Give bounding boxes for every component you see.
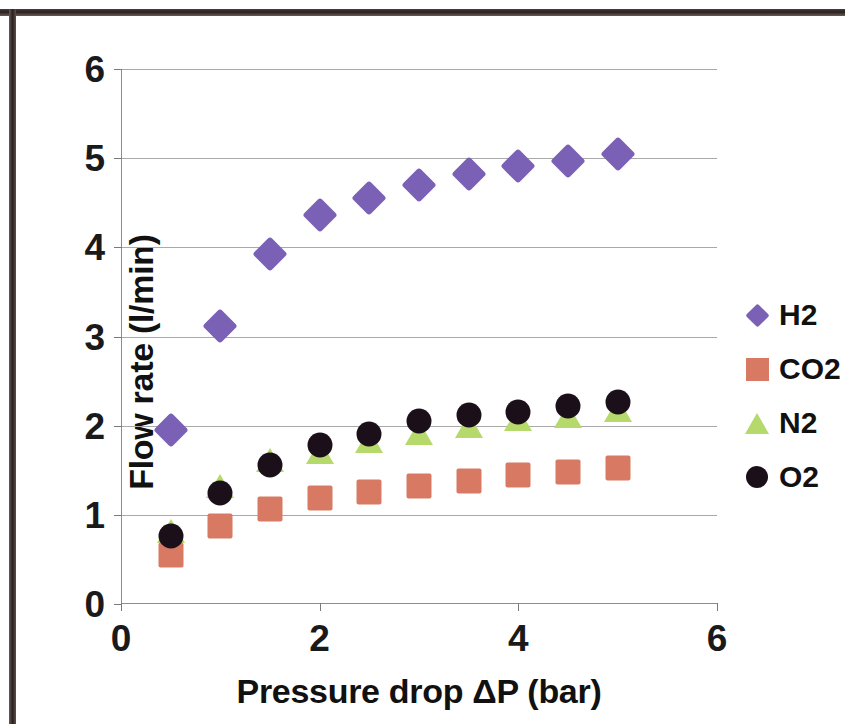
data-point-o2 (208, 480, 233, 505)
x-tick-mark (518, 603, 519, 611)
gridline (121, 247, 717, 248)
legend-marker-shape (746, 466, 768, 488)
chart-figure: Flow rate (l/min) Pressure drop ΔP (bar)… (0, 0, 845, 724)
x-axis-title: Pressure drop ΔP (bar) (121, 672, 717, 711)
legend: H2CO2N2O2 (744, 288, 844, 504)
data-point-co2 (407, 474, 432, 499)
legend-item-n2[interactable]: N2 (744, 396, 844, 450)
plot-area: 0123456 0246 (121, 69, 717, 604)
x-tick-label: 6 (707, 620, 728, 657)
data-point-co2 (556, 460, 581, 485)
data-point-co2 (456, 468, 481, 493)
data-point-co2 (307, 485, 332, 510)
data-point-o2 (456, 402, 481, 427)
legend-marker-shape (746, 358, 769, 381)
data-point-h2 (451, 157, 486, 192)
page-border-left (9, 9, 16, 724)
circle-icon (744, 464, 770, 490)
page-border-top (0, 9, 845, 16)
data-point-co2 (357, 479, 382, 504)
data-point-h2 (153, 412, 188, 447)
data-point-o2 (258, 452, 283, 477)
y-tick-label: 2 (84, 407, 105, 444)
y-tick-mark (114, 158, 122, 159)
triangle-icon (744, 410, 770, 436)
data-point-h2 (501, 149, 536, 184)
data-point-o2 (158, 524, 183, 549)
data-point-h2 (203, 308, 238, 343)
data-point-co2 (506, 462, 531, 487)
x-tick-mark (121, 603, 122, 611)
y-tick-label: 3 (84, 318, 105, 355)
x-tick-label: 2 (309, 620, 330, 657)
data-point-o2 (407, 409, 432, 434)
y-tick-mark (114, 515, 122, 516)
x-tick-label: 0 (111, 620, 132, 657)
legend-marker-shape (745, 413, 769, 434)
legend-label: H2 (779, 300, 817, 330)
legend-item-co2[interactable]: CO2 (744, 342, 844, 396)
gridline (121, 69, 717, 70)
legend-label: N2 (779, 408, 817, 438)
y-tick-label: 1 (84, 496, 105, 533)
data-point-h2 (302, 198, 337, 233)
data-point-h2 (352, 181, 387, 216)
y-tick-label: 4 (84, 229, 105, 266)
x-tick-label: 4 (508, 620, 529, 657)
data-point-o2 (506, 400, 531, 425)
data-point-co2 (258, 497, 283, 522)
gridline (121, 337, 717, 338)
legend-marker-shape (745, 303, 769, 327)
y-tick-mark (114, 69, 122, 70)
square-icon (744, 356, 770, 382)
data-point-h2 (401, 167, 436, 202)
y-tick-label: 0 (84, 586, 105, 623)
data-point-o2 (357, 421, 382, 446)
y-tick-label: 6 (84, 51, 105, 88)
diamond-icon (744, 302, 770, 328)
x-tick-mark (320, 603, 321, 611)
data-point-co2 (605, 455, 630, 480)
data-point-h2 (550, 143, 585, 178)
legend-label: CO2 (779, 354, 841, 384)
y-tick-label: 5 (84, 140, 105, 177)
y-tick-mark (114, 426, 122, 427)
data-point-o2 (307, 433, 332, 458)
data-point-o2 (556, 394, 581, 419)
data-point-o2 (605, 389, 630, 414)
x-tick-mark (717, 603, 718, 611)
legend-label: O2 (779, 462, 819, 492)
data-point-co2 (208, 513, 233, 538)
legend-item-o2[interactable]: O2 (744, 450, 844, 504)
legend-item-h2[interactable]: H2 (744, 288, 844, 342)
data-point-h2 (252, 237, 287, 272)
y-tick-mark (114, 247, 122, 248)
data-point-h2 (600, 136, 635, 171)
x-axis-line (121, 603, 717, 604)
y-tick-mark (114, 337, 122, 338)
